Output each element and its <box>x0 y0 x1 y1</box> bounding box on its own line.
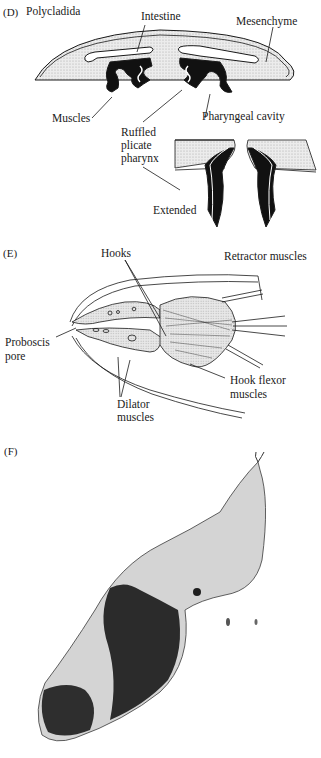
panel-letter-d: (D) <box>3 6 18 18</box>
panel-letter-e: (E) <box>3 247 17 259</box>
label-retractor-muscles: Retractor muscles <box>224 250 307 263</box>
label-hooks: Hooks <box>101 247 131 260</box>
label-dilator-muscles: muscles <box>117 411 154 424</box>
label-pharynx: pharynx <box>121 152 159 165</box>
polyclad-cross-section <box>35 30 294 92</box>
label-pharyngeal-cavity: Pharyngeal cavity <box>202 110 285 123</box>
micrograph-organism <box>38 452 265 741</box>
label-muscles: Muscles <box>52 112 90 125</box>
label-mesenchyme: Mesenchyme <box>236 15 297 28</box>
label-intestine: Intestine <box>141 10 181 23</box>
label-hook-flexor-muscles: muscles <box>230 388 267 401</box>
label-plicate: plicate <box>121 139 152 152</box>
panel-title-polycladida: Polycladida <box>26 5 80 18</box>
label-extended: Extended <box>153 204 196 217</box>
label-ruffled: Ruffled <box>121 126 156 139</box>
label-pore: pore <box>5 350 25 363</box>
panel-letter-f: (F) <box>4 445 17 457</box>
label-proboscis: Proboscis <box>5 336 50 349</box>
label-dilator: Dilator <box>117 398 150 411</box>
label-hook-flexor: Hook flexor <box>230 374 286 387</box>
